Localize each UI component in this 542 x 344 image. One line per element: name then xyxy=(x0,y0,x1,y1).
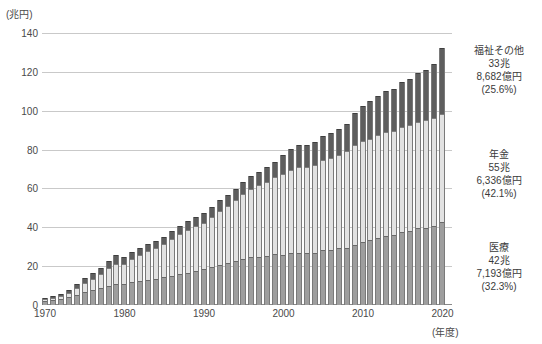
bar-segment-福祉その他 xyxy=(431,64,437,118)
bar-segment-年金 xyxy=(201,223,207,270)
bar-segment-福祉その他 xyxy=(145,244,151,251)
y-tick: 80 xyxy=(4,144,38,155)
bar-1997 xyxy=(256,172,262,305)
bar-segment-年金 xyxy=(185,230,191,273)
bar-1989 xyxy=(193,217,199,305)
stacked-bar-series xyxy=(42,33,452,305)
x-axis-unit-label: (年度) xyxy=(432,324,459,339)
bar-segment-医療 xyxy=(113,284,119,305)
bar-segment-医療 xyxy=(431,226,437,305)
bar-segment-医療 xyxy=(90,290,96,305)
bar-segment-福祉その他 xyxy=(439,48,445,114)
bar-2018 xyxy=(423,70,429,305)
annotation-pension-name: 年金 xyxy=(458,148,540,161)
bar-segment-医療 xyxy=(58,299,64,305)
bar-segment-福祉その他 xyxy=(153,241,159,249)
bar-segment-福祉その他 xyxy=(360,106,366,141)
bar-segment-年金 xyxy=(415,122,421,228)
bar-segment-福祉その他 xyxy=(296,145,302,167)
bar-segment-医療 xyxy=(193,271,199,305)
bar-segment-福祉その他 xyxy=(280,155,286,175)
annotation-pension-oku: 6,336億円 xyxy=(458,174,540,187)
bar-2003 xyxy=(304,145,310,305)
bar-segment-医療 xyxy=(391,235,397,305)
bar-segment-福祉その他 xyxy=(375,96,381,136)
bar-1998 xyxy=(264,167,270,305)
bar-segment-福祉その他 xyxy=(391,89,397,132)
x-tick: 2020 xyxy=(431,308,453,319)
bar-segment-年金 xyxy=(74,288,80,295)
bar-segment-医療 xyxy=(217,265,223,305)
bar-1972 xyxy=(58,294,64,305)
bar-segment-医療 xyxy=(50,300,56,305)
bar-segment-福祉その他 xyxy=(415,73,421,122)
bar-segment-福祉その他 xyxy=(201,213,207,222)
bar-1993 xyxy=(225,195,231,305)
bar-segment-福祉その他 xyxy=(98,268,104,275)
bar-1980 xyxy=(121,257,127,305)
bar-1987 xyxy=(177,226,183,305)
bar-segment-年金 xyxy=(360,141,366,242)
bar-segment-福祉その他 xyxy=(399,82,405,126)
bar-segment-医療 xyxy=(177,274,183,305)
bar-segment-年金 xyxy=(153,248,159,279)
bar-segment-福祉その他 xyxy=(383,91,389,132)
bar-1988 xyxy=(185,221,191,305)
bar-1992 xyxy=(217,200,223,305)
bar-segment-年金 xyxy=(225,206,231,264)
y-tick: 100 xyxy=(4,105,38,116)
bar-segment-年金 xyxy=(217,211,223,265)
annotation-pension-share: (42.1%) xyxy=(458,187,540,200)
bar-segment-医療 xyxy=(407,231,413,305)
bar-segment-年金 xyxy=(431,118,437,226)
bar-segment-医療 xyxy=(439,222,445,305)
bar-segment-年金 xyxy=(336,155,342,248)
bar-segment-医療 xyxy=(367,240,373,305)
bar-segment-年金 xyxy=(344,151,350,247)
bar-segment-福祉その他 xyxy=(352,113,358,144)
bar-2016 xyxy=(407,79,413,305)
bar-segment-医療 xyxy=(312,253,318,305)
bar-segment-医療 xyxy=(383,236,389,305)
bar-1971 xyxy=(50,296,56,305)
bar-segment-福祉その他 xyxy=(256,172,262,186)
bar-segment-年金 xyxy=(161,244,167,277)
bar-segment-福祉その他 xyxy=(344,124,350,151)
bar-segment-医療 xyxy=(360,242,366,305)
bar-2000 xyxy=(280,155,286,305)
bar-segment-福祉その他 xyxy=(320,136,326,160)
y-axis-tick-labels: 140 120 100 80 60 40 20 0 xyxy=(0,33,38,305)
bar-segment-福祉その他 xyxy=(177,226,183,234)
bar-segment-年金 xyxy=(312,165,318,252)
x-tick: 1970 xyxy=(34,308,56,319)
bar-segment-年金 xyxy=(248,189,254,257)
bar-segment-福祉その他 xyxy=(106,261,112,269)
bar-segment-医療 xyxy=(129,282,135,305)
bar-segment-医療 xyxy=(233,261,239,305)
bar-2005 xyxy=(320,136,326,305)
bar-segment-年金 xyxy=(391,131,397,235)
bar-2001 xyxy=(288,149,294,305)
bar-2010 xyxy=(360,106,366,305)
bar-1994 xyxy=(233,189,239,305)
bar-segment-医療 xyxy=(423,228,429,305)
bar-segment-福祉その他 xyxy=(137,248,143,255)
bar-1974 xyxy=(74,284,80,305)
bar-segment-年金 xyxy=(145,251,151,280)
bar-segment-医療 xyxy=(121,284,127,305)
bar-segment-医療 xyxy=(42,301,48,305)
bar-segment-年金 xyxy=(399,127,405,232)
bar-segment-福祉その他 xyxy=(225,195,231,206)
bar-segment-医療 xyxy=(399,232,405,305)
bar-segment-年金 xyxy=(177,234,183,274)
annotation-medical-share: (32.3%) xyxy=(458,280,540,293)
bar-segment-福祉その他 xyxy=(367,101,373,139)
bar-segment-年金 xyxy=(106,268,112,285)
bar-segment-福祉その他 xyxy=(233,189,239,201)
bar-segment-医療 xyxy=(106,286,112,305)
y-tick: 120 xyxy=(4,66,38,77)
bar-segment-医療 xyxy=(82,292,88,305)
bar-1983 xyxy=(145,244,151,305)
x-tick: 1980 xyxy=(113,308,135,319)
bar-segment-年金 xyxy=(233,200,239,261)
